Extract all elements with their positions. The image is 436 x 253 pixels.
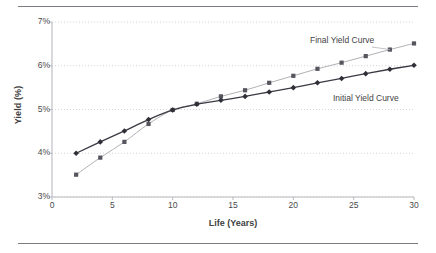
data-point-square	[74, 173, 78, 177]
data-point-diamond	[266, 89, 272, 95]
data-point-diamond	[387, 66, 393, 72]
x-tick-label: 10	[158, 200, 188, 210]
data-point-square	[98, 156, 102, 160]
series-line	[76, 43, 414, 174]
data-point-diamond	[315, 80, 321, 86]
y-tick-labels: 3%4%5%6%7%	[24, 0, 50, 253]
data-point-diamond	[242, 94, 248, 100]
series-label-final-yield-curve: Final Yield Curve	[310, 35, 374, 45]
y-axis-title: Yield (%)	[13, 65, 23, 145]
y-tick-label: 6%	[26, 61, 50, 70]
y-tick-label: 5%	[26, 105, 50, 114]
data-point-diamond	[122, 128, 128, 134]
x-axis-title: Life (Years)	[52, 218, 414, 228]
x-tick-label: 15	[218, 200, 248, 210]
axes-group	[49, 22, 414, 200]
data-point-square	[122, 140, 126, 144]
x-tick-label: 0	[37, 200, 67, 210]
series-label-initial-yield-curve: Initial Yield Curve	[333, 93, 399, 103]
x-tick-label: 25	[339, 200, 369, 210]
data-point-diamond	[411, 63, 417, 69]
data-point-square	[146, 122, 150, 126]
data-point-diamond	[291, 85, 297, 91]
yield-curve-chart: 3%4%5%6%7% 051015202530 Yield (%) Life (…	[0, 0, 436, 253]
gridlines-group	[52, 22, 414, 197]
data-point-diamond	[97, 139, 103, 145]
data-point-square	[412, 41, 416, 45]
data-point-diamond	[146, 117, 152, 123]
x-tick-label: 20	[278, 200, 308, 210]
y-tick-label: 4%	[26, 148, 50, 157]
data-point-square	[364, 54, 368, 58]
y-tick-label: 7%	[26, 17, 50, 26]
x-tick-label: 5	[97, 200, 127, 210]
data-point-square	[340, 61, 344, 65]
data-point-diamond	[339, 76, 345, 82]
data-point-diamond	[363, 71, 369, 77]
data-point-square	[315, 67, 319, 71]
series-group	[73, 41, 416, 176]
data-point-square	[243, 88, 247, 92]
data-point-diamond	[73, 150, 79, 156]
annotation-leader-line	[372, 47, 390, 50]
data-point-square	[291, 74, 295, 78]
data-point-square	[267, 81, 271, 85]
x-tick-label: 30	[399, 200, 429, 210]
annotation-leader-lines	[372, 47, 390, 50]
